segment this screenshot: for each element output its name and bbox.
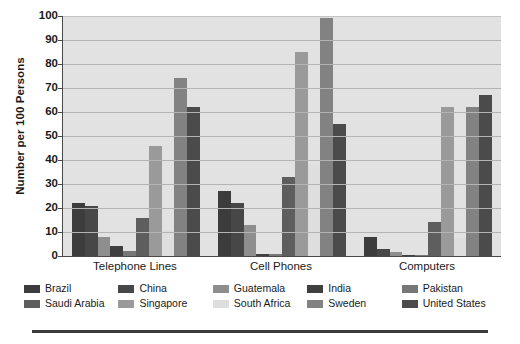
bar	[162, 230, 175, 256]
legend-item-label: United States	[423, 297, 486, 310]
bar	[320, 18, 333, 256]
legend-swatch-icon	[307, 300, 323, 308]
bar	[282, 177, 295, 256]
bar-chart: Number per 100 Persons 01020304050607080…	[0, 0, 520, 344]
legend-item[interactable]: Guatemala	[213, 282, 307, 295]
legend-swatch-icon	[213, 285, 229, 293]
legend-swatch-icon	[118, 285, 134, 293]
gridline	[63, 208, 501, 209]
y-axis-tick-mark	[58, 208, 63, 209]
y-axis-tick-mark	[58, 64, 63, 65]
legend-item-label: India	[328, 282, 351, 295]
y-axis-tick-label: 50	[28, 130, 58, 142]
legend-row: Saudi ArabiaSingaporeSouth AfricaSwedenU…	[24, 297, 496, 310]
y-axis-tick-label: 70	[28, 82, 58, 94]
legend-item-label: Singapore	[139, 297, 187, 310]
bar	[454, 238, 467, 256]
bar	[415, 255, 428, 256]
gridline	[63, 88, 501, 89]
legend-item-label: Pakistan	[423, 282, 463, 295]
gridline	[63, 184, 501, 185]
legend-swatch-icon	[307, 285, 323, 293]
y-axis-tick-label: 10	[28, 226, 58, 238]
y-axis-title-text: Number per 100 Persons	[14, 57, 26, 195]
legend-item[interactable]: United States	[402, 297, 496, 310]
legend-item-label: China	[139, 282, 166, 295]
bar	[428, 222, 441, 256]
y-axis-tick-mark	[58, 160, 63, 161]
bar	[308, 165, 321, 256]
x-axis-tick-labels: Telephone LinesCell PhonesComputers	[62, 258, 500, 276]
legend-item[interactable]: Singapore	[118, 297, 212, 310]
legend-row: BrazilChinaGuatemalaIndiaPakistan	[24, 282, 496, 295]
gridline	[63, 160, 501, 161]
bar	[390, 252, 403, 256]
y-axis-tick-label: 80	[28, 58, 58, 70]
legend-item[interactable]: Saudi Arabia	[24, 297, 118, 310]
legend-swatch-icon	[118, 300, 134, 308]
bar	[110, 246, 123, 256]
bar	[98, 237, 111, 256]
bar	[244, 225, 257, 256]
bar	[149, 146, 162, 256]
y-axis-tick-mark	[58, 184, 63, 185]
bar	[333, 124, 346, 256]
y-axis-tick-label: 100	[28, 10, 58, 22]
legend-swatch-icon	[213, 300, 229, 308]
bar	[72, 203, 85, 256]
y-axis-tick-label: 30	[28, 178, 58, 190]
gridline	[63, 16, 501, 17]
legend-swatch-icon	[402, 285, 418, 293]
y-axis-tick-label: 0	[28, 250, 58, 262]
y-axis-tick-mark	[58, 256, 63, 257]
legend-item[interactable]: Brazil	[24, 282, 118, 295]
y-axis-tick-label: 40	[28, 154, 58, 166]
legend-item[interactable]: South Africa	[213, 297, 307, 310]
bar	[174, 78, 187, 256]
legend-item[interactable]: Sweden	[307, 297, 401, 310]
y-axis-tick-mark	[58, 40, 63, 41]
y-axis-tick-labels: 0102030405060708090100	[28, 16, 58, 256]
bar	[269, 254, 282, 256]
gridline	[63, 40, 501, 41]
bar	[295, 52, 308, 256]
bar	[231, 203, 244, 256]
bar	[256, 254, 269, 256]
legend: BrazilChinaGuatemalaIndiaPakistanSaudi A…	[24, 282, 496, 310]
gridline	[63, 232, 501, 233]
y-axis-tick-mark	[58, 16, 63, 17]
y-axis-tick-label: 90	[28, 34, 58, 46]
legend-item[interactable]: India	[307, 282, 401, 295]
bar	[123, 251, 136, 256]
gridline	[63, 64, 501, 65]
legend-item[interactable]: China	[118, 282, 212, 295]
x-axis-tick-label: Computers	[354, 258, 500, 276]
legend-item-label: South Africa	[234, 297, 291, 310]
legend-item-label: Sweden	[328, 297, 366, 310]
bar	[402, 255, 415, 256]
plot-area	[62, 16, 501, 257]
bar	[466, 107, 479, 256]
bar	[85, 206, 98, 256]
y-axis-tick-mark	[58, 136, 63, 137]
gridline	[63, 136, 501, 137]
plot-wrapper: Number per 100 Persons 01020304050607080…	[0, 0, 520, 278]
bar	[187, 107, 200, 256]
gridline	[63, 112, 501, 113]
legend-item-label: Guatemala	[234, 282, 285, 295]
y-axis-tick-mark	[58, 112, 63, 113]
y-axis-tick-mark	[58, 232, 63, 233]
y-axis-tick-mark	[58, 88, 63, 89]
bar	[364, 237, 377, 256]
legend-item-label: Saudi Arabia	[45, 297, 105, 310]
y-axis-title: Number per 100 Persons	[10, 0, 30, 252]
y-axis-tick-label: 60	[28, 106, 58, 118]
legend-item[interactable]: Pakistan	[402, 282, 496, 295]
bar	[441, 107, 454, 256]
footer-rule	[32, 330, 488, 333]
bar	[218, 191, 231, 256]
legend-swatch-icon	[24, 300, 40, 308]
x-axis-tick-label: Cell Phones	[208, 258, 354, 276]
legend-swatch-icon	[24, 285, 40, 293]
bar	[136, 218, 149, 256]
